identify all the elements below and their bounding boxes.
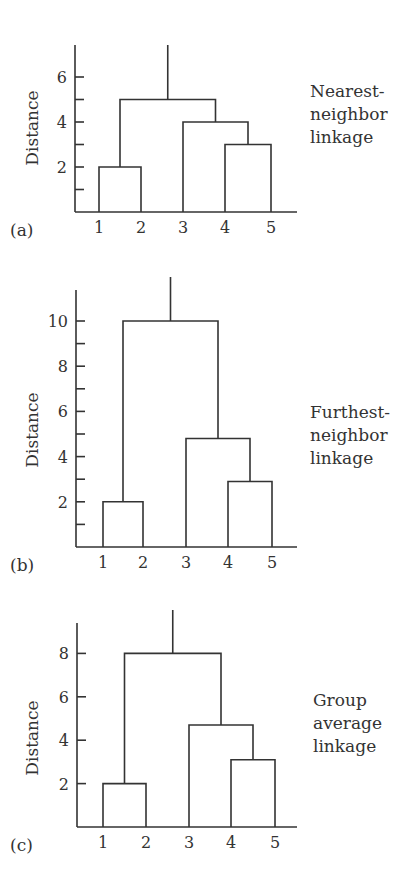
leaf-label: 1 [98, 833, 108, 852]
linkage-method-label: Nearest- [310, 81, 385, 101]
y-tick-label: 4 [58, 448, 68, 467]
leaf-label: 5 [270, 833, 280, 852]
merge-link [125, 653, 222, 783]
linkage-method-label: neighbor [310, 104, 388, 124]
linkage-method-label: linkage [310, 127, 373, 147]
merge-link [186, 439, 250, 547]
y-tick-label: 2 [57, 158, 67, 177]
linkage-method-label: average [313, 713, 382, 733]
linkage-method-label: Furthest- [310, 402, 390, 422]
y-axis-title: Distance [22, 700, 42, 775]
panel-label: (c) [10, 835, 33, 855]
leaf-label: 1 [98, 553, 108, 572]
y-tick-label: 10 [48, 312, 68, 331]
merge-link [99, 167, 141, 212]
dendrogram-figure: 24612345Distance(a)Nearest-neighborlinka… [0, 0, 411, 889]
merge-link [189, 725, 253, 827]
merge-link [225, 145, 271, 213]
linkage-method-label: linkage [310, 448, 373, 468]
y-tick-label: 6 [59, 688, 69, 707]
leaf-label: 5 [266, 218, 276, 237]
leaf-label: 2 [141, 833, 151, 852]
leaf-label: 2 [136, 218, 146, 237]
y-tick-label: 8 [58, 357, 68, 376]
linkage-method-label: neighbor [310, 425, 388, 445]
y-tick-label: 6 [58, 402, 68, 421]
y-tick-label: 4 [57, 113, 67, 132]
leaf-label: 4 [226, 833, 236, 852]
merge-link [231, 760, 275, 827]
merge-link [103, 784, 146, 827]
merge-link [123, 321, 218, 502]
merge-link [120, 100, 216, 168]
leaf-label: 5 [267, 553, 277, 572]
dendrogram-panel-b: 24681012345Distance(b)Furthest-neighborl… [10, 277, 390, 575]
panel-label: (b) [10, 555, 34, 575]
y-tick-label: 8 [59, 644, 69, 663]
leaf-label: 3 [181, 553, 191, 572]
leaf-label: 4 [223, 553, 233, 572]
merge-link [183, 122, 248, 212]
y-tick-label: 6 [57, 68, 67, 87]
leaf-label: 1 [94, 218, 104, 237]
dendrogram-panel-c: 246812345Distance(c)Groupaveragelinkage [10, 610, 382, 855]
y-tick-label: 4 [59, 731, 69, 750]
y-tick-label: 2 [58, 493, 68, 512]
leaf-label: 3 [178, 218, 188, 237]
linkage-method-label: linkage [313, 736, 376, 756]
leaf-label: 2 [138, 553, 148, 572]
leaf-label: 3 [184, 833, 194, 852]
merge-link [103, 502, 143, 547]
y-axis-title: Distance [22, 392, 42, 467]
y-axis-title: Distance [22, 90, 42, 165]
dendrogram-panel-a: 24612345Distance(a)Nearest-neighborlinka… [10, 45, 388, 240]
leaf-label: 4 [220, 218, 230, 237]
merge-link [228, 481, 272, 547]
linkage-method-label: Group [313, 690, 367, 710]
y-tick-label: 2 [59, 775, 69, 794]
panel-label: (a) [10, 220, 33, 240]
